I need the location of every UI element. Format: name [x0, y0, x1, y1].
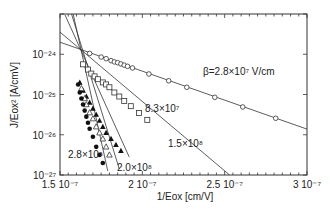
- open-circle-marker: [99, 55, 104, 60]
- series-label: β=2.8×10⁷ V/cm: [203, 66, 275, 77]
- open-circle-marker: [212, 95, 217, 100]
- filled-circle-marker: [84, 114, 89, 119]
- open-triangle-marker: [103, 144, 109, 149]
- open-square-marker: [95, 77, 100, 82]
- y-tick-label: 10⁻²⁶: [32, 130, 56, 141]
- filled-circle-marker: [87, 126, 92, 131]
- series-label: 2.0×10⁸: [117, 162, 152, 173]
- open-circle-marker: [125, 64, 130, 69]
- series-label: 1.5×10⁸: [168, 138, 203, 149]
- y-tick-label: 10⁻²⁵: [32, 90, 56, 101]
- x-tick-label: 3 10⁻⁷: [293, 179, 321, 190]
- open-triangle-marker: [107, 152, 113, 157]
- fit-line: [65, 15, 129, 157]
- open-circle-marker: [240, 105, 245, 110]
- filled-circle-marker: [77, 90, 82, 95]
- x-tick-labels: 1.5 10⁻⁷2 10⁻⁷2.5 10⁻⁷3 10⁻⁷: [42, 179, 322, 190]
- open-square-marker: [112, 90, 117, 95]
- open-square-marker: [128, 104, 133, 109]
- filled-circle-marker: [82, 108, 87, 113]
- open-square-marker: [107, 85, 112, 90]
- x-tick-label: 2.5 10⁻⁷: [206, 179, 243, 190]
- series-label: 2.8×10⁸: [68, 149, 103, 160]
- open-circle-marker: [87, 51, 92, 56]
- open-circle-marker: [104, 56, 109, 61]
- y-tick-label: 10⁻²⁴: [32, 49, 56, 60]
- open-circle-marker: [147, 72, 152, 77]
- x-tick-label: 2 10⁻⁷: [128, 179, 156, 190]
- filled-triangle-marker: [118, 148, 124, 153]
- filled-triangle-marker: [90, 106, 96, 111]
- open-square-marker: [81, 62, 86, 67]
- chart: 1.5 10⁻⁷2 10⁻⁷2.5 10⁻⁷3 10⁻⁷ 10⁻²⁴10⁻²⁵1…: [0, 0, 330, 214]
- filled-circle-marker: [91, 134, 96, 139]
- open-square-marker: [117, 94, 122, 99]
- filled-circle-marker: [81, 102, 86, 107]
- filled-circle-marker: [101, 161, 106, 166]
- x-axis-title: 1/Eox [cm/V]: [157, 191, 214, 202]
- filled-circle-marker: [86, 120, 91, 125]
- open-square-marker: [122, 98, 127, 103]
- y-axis-title: J/Eox² [A/cmV]: [9, 62, 20, 128]
- filled-triangle-marker: [93, 112, 99, 117]
- y-tick-labels: 10⁻²⁴10⁻²⁵10⁻²⁶10⁻²⁷: [32, 49, 56, 181]
- open-square-marker: [145, 117, 150, 122]
- open-circle-marker: [130, 66, 135, 71]
- open-triangle-marker: [97, 130, 103, 135]
- filled-circle-marker: [76, 82, 81, 87]
- series-label: 8.3×10⁷: [145, 103, 180, 114]
- filled-triangle-marker: [100, 124, 106, 129]
- open-square-marker: [137, 111, 142, 116]
- open-circle-marker: [184, 85, 189, 90]
- filled-triangle-marker: [113, 142, 119, 147]
- filled-circle-marker: [79, 96, 84, 101]
- open-circle-marker: [166, 79, 171, 84]
- open-circle-marker: [273, 116, 278, 121]
- filled-triangle-marker: [97, 118, 103, 123]
- y-tick-label: 10⁻²⁷: [33, 170, 56, 181]
